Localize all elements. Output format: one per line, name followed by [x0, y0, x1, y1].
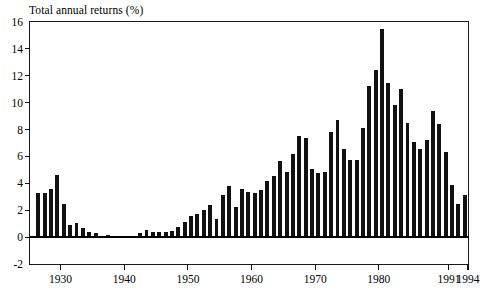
y-axis-tick-label: 10 — [12, 97, 24, 109]
x-axis-tick-label: 1940 — [113, 273, 136, 285]
x-axis-tick — [467, 264, 468, 270]
y-axis-tick-label: 4 — [17, 177, 23, 189]
y-axis-tick-label: 6 — [17, 150, 23, 162]
y-axis-tick-label: 8 — [17, 124, 23, 136]
y-axis-tick-label: 12 — [12, 70, 24, 82]
y-axis-tick-label: 0 — [17, 231, 23, 243]
x-axis-tick-label: 1960 — [240, 273, 263, 285]
x-axis-tick — [315, 264, 316, 270]
x-axis-tick — [124, 264, 125, 270]
y-axis-tick-label: 16 — [12, 16, 24, 28]
x-axis-tick-label: 1970 — [304, 273, 327, 285]
x-axis-tick — [251, 264, 252, 270]
x-axis-tick — [448, 264, 449, 270]
y-axis-tick-label: 14 — [12, 43, 24, 55]
y-axis-tick-label: -2 — [13, 258, 23, 270]
x-axis-tick-label: 1980 — [367, 273, 390, 285]
x-axis-tick-label: 1994 — [457, 273, 480, 285]
x-axis: 19301940195019601970198019911994 — [30, 22, 468, 264]
x-axis-tick — [187, 264, 188, 270]
plot-area: 1614121086420-2 193019401950196019701980… — [29, 21, 469, 265]
x-axis-tick-label: 1930 — [49, 273, 72, 285]
chart-title: Total annual returns (%) — [29, 3, 143, 17]
y-axis-tick-label: 2 — [17, 204, 23, 216]
x-axis-tick — [60, 264, 61, 270]
x-axis-tick — [378, 264, 379, 270]
x-axis-tick-label: 1950 — [176, 273, 199, 285]
